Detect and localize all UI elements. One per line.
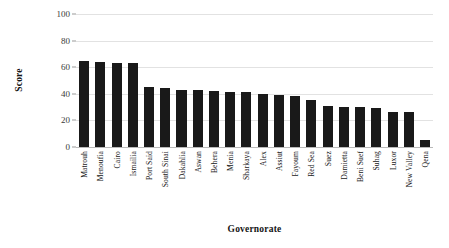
y-tick-label-0: 0 bbox=[66, 142, 77, 152]
x-tick-label-text: New Valley bbox=[404, 151, 413, 188]
x-tick-label: Aswan bbox=[190, 149, 206, 221]
bar bbox=[79, 61, 89, 147]
bar-cell bbox=[352, 14, 368, 147]
bar bbox=[420, 140, 430, 147]
bar-cell bbox=[173, 14, 189, 147]
plot-area: 020406080100 bbox=[76, 14, 433, 147]
bar-cell bbox=[368, 14, 384, 147]
bar bbox=[306, 100, 316, 147]
bar bbox=[258, 94, 268, 147]
bar-cell bbox=[271, 14, 287, 147]
bar bbox=[95, 62, 105, 147]
x-tick-label: Damietta bbox=[336, 149, 352, 221]
x-tick-label: Qena bbox=[417, 149, 433, 221]
x-tick-label: Assiut bbox=[271, 149, 287, 221]
y-axis-title: Score bbox=[9, 0, 29, 160]
bar-cell bbox=[92, 14, 108, 147]
x-tick-label: Suez bbox=[320, 149, 336, 221]
x-tick-label: New Valley bbox=[401, 149, 417, 221]
bar bbox=[225, 92, 235, 147]
x-tick-label-text: Red Sea bbox=[307, 151, 316, 177]
x-tick-label: Matrouh bbox=[76, 149, 92, 221]
x-tick-label: Alex bbox=[255, 149, 271, 221]
x-tick-label-text: Behera bbox=[209, 151, 218, 173]
bar bbox=[128, 63, 138, 147]
bar-cell bbox=[417, 14, 433, 147]
x-tick-label-text: Aswan bbox=[193, 151, 202, 173]
x-tick-label-text: Qena bbox=[421, 151, 430, 167]
x-tick-label: Ismailia bbox=[125, 149, 141, 221]
bar-cell bbox=[190, 14, 206, 147]
x-tick-label: Menia bbox=[222, 149, 238, 221]
x-axis-title: Governorate bbox=[76, 224, 433, 234]
x-tick-label-text: Cairo bbox=[112, 151, 121, 168]
bar-cell bbox=[401, 14, 417, 147]
bar-cell bbox=[206, 14, 222, 147]
x-axis-tick-labels: MatrouhMenoufiaCairoIsmailiaPort SaidSou… bbox=[76, 149, 433, 221]
bar bbox=[323, 106, 333, 147]
bar bbox=[209, 91, 219, 147]
y-tick-label-100: 100 bbox=[57, 9, 77, 19]
x-tick-label-text: Ismailia bbox=[128, 151, 137, 176]
bar-cell bbox=[108, 14, 124, 147]
x-tick-label: Sharkaya bbox=[238, 149, 254, 221]
bar-cell bbox=[255, 14, 271, 147]
bar bbox=[241, 92, 251, 147]
bar bbox=[404, 112, 414, 147]
y-tick-label-80: 80 bbox=[61, 36, 76, 46]
x-tick-label-text: Menoufia bbox=[96, 151, 105, 181]
x-tick-label: Fayoum bbox=[287, 149, 303, 221]
x-tick-label-text: Alex bbox=[258, 151, 267, 166]
x-tick-label-text: Dakahlia bbox=[177, 151, 186, 179]
bar bbox=[112, 63, 122, 147]
y-axis-title-text: Score bbox=[14, 68, 24, 92]
x-tick-label-text: Suhag bbox=[372, 151, 381, 170]
y-tick-label-60: 60 bbox=[61, 62, 76, 72]
bar bbox=[144, 87, 154, 147]
x-tick-label-text: Beni Suef bbox=[356, 151, 365, 182]
x-tick-label-text: South Sinai bbox=[161, 151, 170, 187]
bar bbox=[339, 107, 349, 147]
bar-cell bbox=[238, 14, 254, 147]
x-tick-label: Menoufia bbox=[92, 149, 108, 221]
bar-cell bbox=[157, 14, 173, 147]
x-tick-label-text: Menia bbox=[226, 151, 235, 171]
bar bbox=[160, 88, 170, 147]
bar bbox=[274, 95, 284, 147]
x-tick-label: South Sinai bbox=[157, 149, 173, 221]
bar-cell bbox=[222, 14, 238, 147]
x-tick-label: Beni Suef bbox=[352, 149, 368, 221]
bar bbox=[193, 90, 203, 147]
x-tick-label-text: Matrouh bbox=[80, 151, 89, 178]
bar bbox=[371, 108, 381, 147]
bar bbox=[355, 107, 365, 147]
x-tick-label-text: Luxor bbox=[388, 151, 397, 170]
x-tick-label-text: Suez bbox=[323, 151, 332, 166]
x-tick-label: Behera bbox=[206, 149, 222, 221]
bar-cell bbox=[320, 14, 336, 147]
bar-cell bbox=[125, 14, 141, 147]
x-tick-label-text: Sharkaya bbox=[242, 151, 251, 180]
bar-cell bbox=[384, 14, 400, 147]
x-tick-label: Cairo bbox=[108, 149, 124, 221]
bar-series bbox=[76, 14, 433, 147]
bar-cell bbox=[287, 14, 303, 147]
bar bbox=[388, 112, 398, 147]
y-tick-label-40: 40 bbox=[61, 89, 76, 99]
x-tick-label-text: Assiut bbox=[274, 151, 283, 171]
x-tick-label-text: Damietta bbox=[339, 151, 348, 180]
gridline-0 bbox=[76, 147, 433, 148]
bar bbox=[176, 90, 186, 147]
bar-cell bbox=[303, 14, 319, 147]
x-tick-label-text: Fayoum bbox=[291, 151, 300, 177]
x-tick-label: Suhag bbox=[368, 149, 384, 221]
bar-cell bbox=[336, 14, 352, 147]
y-tick-label-20: 20 bbox=[61, 115, 76, 125]
x-tick-label: Red Sea bbox=[303, 149, 319, 221]
x-tick-label: Port Said bbox=[141, 149, 157, 221]
x-tick-label-text: Port Said bbox=[145, 151, 154, 180]
bar-cell bbox=[141, 14, 157, 147]
bar-chart-figure: Score 020406080100 MatrouhMenoufiaCairoI… bbox=[0, 0, 449, 248]
bar bbox=[290, 96, 300, 147]
x-tick-label: Luxor bbox=[384, 149, 400, 221]
